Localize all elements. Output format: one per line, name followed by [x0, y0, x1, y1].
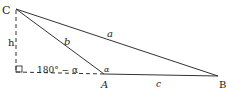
triangle-diagram: C h b a 180° − α α A c B: [0, 0, 231, 98]
right-angle-marker: [16, 66, 22, 72]
label-c: c: [156, 79, 161, 89]
vertex-label-b: B: [219, 79, 226, 90]
label-a: a: [107, 28, 113, 39]
label-h: h: [8, 37, 15, 48]
side-c: [104, 74, 218, 76]
vertex-label-a: A: [100, 79, 108, 90]
vertex-label-c: C: [2, 4, 10, 17]
label-supplement-angle: 180° − α: [37, 65, 78, 75]
label-b: b: [64, 36, 70, 47]
label-alpha: α: [104, 65, 110, 74]
